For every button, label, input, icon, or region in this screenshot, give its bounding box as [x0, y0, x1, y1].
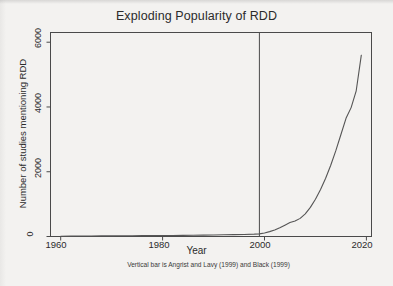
x-tick-marks [61, 237, 367, 241]
rdd-popularity-chart: Exploding Popularity of RDD Number of st… [0, 0, 393, 286]
y-tick-marks [47, 42, 51, 236]
screenshot-canvas: Exploding Popularity of RDD Number of st… [0, 0, 393, 286]
plot-area [0, 0, 393, 286]
plot-frame [51, 33, 372, 237]
data-line-studies-mentioning-rdd [61, 55, 362, 236]
